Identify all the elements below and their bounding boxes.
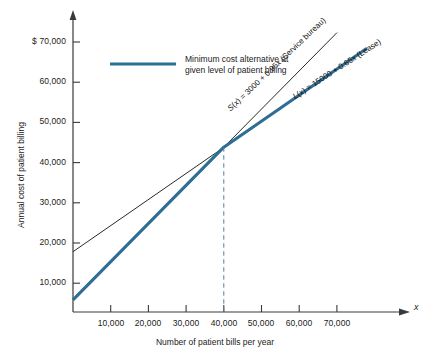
y-tick-label-50000: 50,000: [0, 116, 66, 126]
y-tick-label-10000: 10,000: [0, 277, 66, 287]
chart-container: $ 70,000 60,000 50,000 40,000 30,000 20,…: [0, 0, 432, 360]
y-tick-label-40000: 40,000: [0, 157, 66, 167]
series-line-minimum-cost: [73, 48, 367, 300]
y-tick-label-70000: $ 70,000: [0, 36, 66, 46]
y-axis-title: Annual cost of patient billing: [16, 80, 26, 270]
x-axis-arrow-icon: [399, 308, 410, 315]
y-tick-label-30000: 30,000: [0, 197, 66, 207]
y-axis-ticks: [73, 42, 80, 283]
x-tick-label-70000: 70,000: [308, 318, 366, 328]
x-axis-title: Number of patient bills per year: [100, 337, 330, 347]
y-tick-label-60000: 60,000: [0, 76, 66, 86]
y-tick-label-20000: 20,000: [0, 237, 66, 247]
y-axis-arrow-icon: [70, 10, 77, 20]
x-axis-variable-label: x: [414, 302, 419, 312]
